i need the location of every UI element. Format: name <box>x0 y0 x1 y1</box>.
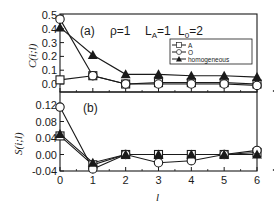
x-tick-label: 3 <box>155 174 161 186</box>
y-tick-label: 0.1 <box>42 64 57 76</box>
x-tick-label: 1 <box>90 174 96 186</box>
y-tick-label: 0.3 <box>42 37 57 49</box>
legend-label-o: O <box>188 49 193 56</box>
y-tick-label: -0.04 <box>32 165 57 177</box>
series-o-marker <box>56 103 64 111</box>
x-tick-label: 0 <box>57 174 63 186</box>
figure: 0.00.10.20.30.40.5 -0.040.000.040.080.12… <box>0 0 278 209</box>
x-axis-label: l <box>156 191 159 203</box>
x-tick-label: 2 <box>123 174 129 186</box>
svg-text:L0=2: L0=2 <box>178 24 203 40</box>
y-tick-label: 0.00 <box>36 149 57 161</box>
y-tick-label: 0.0 <box>42 78 57 90</box>
y-tick-label: 0.5 <box>42 9 57 21</box>
legend-o-marker <box>176 49 181 54</box>
series-o-marker <box>154 80 162 88</box>
series-o-marker <box>121 80 129 88</box>
legend-label-a: A <box>188 42 193 49</box>
y-tick-label: 0.4 <box>42 23 57 35</box>
svg-text:LA=1: LA=1 <box>145 24 171 40</box>
y-axis-label-a: C(i;l) <box>26 43 39 68</box>
series-a-marker <box>56 76 64 84</box>
y-tick-label: 0.08 <box>36 116 57 128</box>
x-tick-label: 6 <box>254 174 260 186</box>
series-o-marker <box>187 80 195 88</box>
legend-label-homogeneous: homogeneous <box>188 56 230 64</box>
rho-label: ρ=1 <box>110 24 131 38</box>
x-tick-label: 4 <box>188 174 194 186</box>
panel-b-label: (b) <box>83 101 98 115</box>
series-o-marker <box>220 80 228 88</box>
legend-a-marker <box>177 43 182 48</box>
y-tick-label: 0.04 <box>36 132 57 144</box>
series-o-marker <box>154 159 162 167</box>
y-tick-label: 0.12 <box>36 99 57 111</box>
series-o-marker <box>253 81 261 89</box>
x-tick-label: 5 <box>221 174 227 186</box>
series-o-marker <box>89 72 97 80</box>
y-axis-label-b: S(i;l) <box>12 132 25 155</box>
l0-annotation: L0=2 <box>178 24 203 40</box>
y-tick-label: 0.2 <box>42 50 57 62</box>
legend: AOhomogeneous <box>170 39 252 64</box>
panel-b: -0.040.000.040.080.120123456 <box>32 92 273 186</box>
la-annotation: LA=1 <box>145 24 171 40</box>
panel-a-label: (a) <box>80 24 95 38</box>
series-o-marker <box>56 15 64 23</box>
